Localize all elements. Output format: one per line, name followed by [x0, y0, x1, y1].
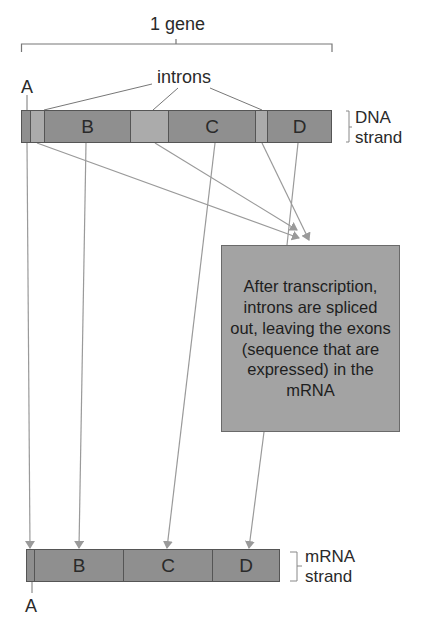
mrna-strand: B C D: [0, 549, 421, 582]
mrna-exon-b-label: B: [73, 555, 86, 577]
exon-b-label: B: [81, 116, 94, 138]
mrna-strand-label: mRNA strand: [305, 547, 355, 586]
mrna-exon-d-label: D: [239, 555, 253, 577]
mrna-exon-a: [26, 549, 35, 582]
intron-1-arrow: [37, 143, 299, 238]
dna-strand-label: DNA strand: [355, 108, 402, 147]
introns-label: introns: [157, 67, 211, 88]
exon-a-label-dna: A: [21, 77, 33, 98]
exon-b-arrow: [79, 143, 86, 548]
gene-bracket: [22, 39, 333, 52]
mrna-exon-b: B: [35, 549, 124, 582]
gene-label: 1 gene: [150, 14, 205, 35]
dna-exon-a: [21, 110, 31, 143]
mrna-exon-d: D: [213, 549, 280, 582]
exon-c-label: C: [205, 116, 219, 138]
dna-label-line2: strand: [355, 128, 402, 148]
intron-2-arrow: [155, 143, 297, 230]
exon-d-arrow: [249, 432, 264, 548]
dna-intron-2: [131, 110, 168, 143]
exon-d-label: D: [293, 116, 307, 138]
dna-exon-c: C: [168, 110, 256, 143]
mrna-label-line1: mRNA: [305, 547, 355, 567]
dna-intron-3: [256, 110, 267, 143]
dna-label-line1: DNA: [355, 108, 402, 128]
dna-intron-1: [31, 110, 44, 143]
splicing-note: After transcription, introns are spliced…: [221, 245, 400, 432]
mrna-exon-c: C: [124, 549, 213, 582]
mrna-exon-c-label: C: [161, 555, 175, 577]
exon-c-arrow: [167, 143, 215, 548]
exon-a-label-mrna: A: [25, 596, 37, 617]
dna-exon-b: B: [44, 110, 131, 143]
intron-3-arrow: [262, 143, 309, 240]
dna-exon-d: D: [267, 110, 332, 143]
intron-pointers: [44, 84, 262, 110]
mrna-label-line2: strand: [305, 567, 355, 587]
exon-a-arrow: [27, 143, 30, 548]
